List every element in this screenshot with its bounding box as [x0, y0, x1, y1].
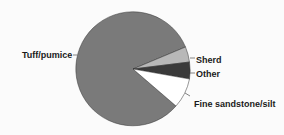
label-sherd: Sherd: [196, 55, 222, 65]
label-fine-sandstone-silt: Fine sandstone/silt: [194, 99, 276, 109]
pie-chart: Tuff/pumice Sherd Other Fine sandstone/s…: [0, 0, 284, 135]
label-tuff-pumice: Tuff/pumice: [22, 50, 72, 60]
leader-sandstone: [185, 93, 190, 96]
label-other: Other: [196, 69, 221, 79]
